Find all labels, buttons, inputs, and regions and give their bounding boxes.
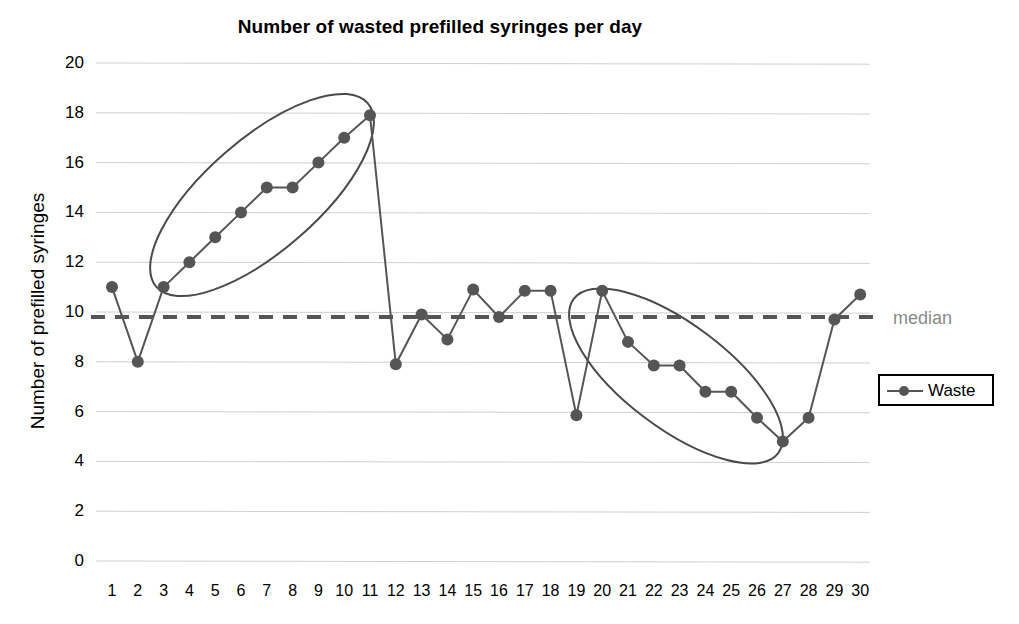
data-point-marker xyxy=(312,157,324,169)
data-point-marker xyxy=(777,435,789,447)
data-point-marker xyxy=(261,182,273,194)
chart-container: Number of wasted prefilled syringes per … xyxy=(0,0,1019,624)
data-point-marker xyxy=(106,281,118,293)
gridline xyxy=(96,262,870,263)
data-point-marker xyxy=(751,412,763,424)
data-point-marker xyxy=(545,285,557,297)
data-point-marker xyxy=(622,336,634,348)
ellipse-falling-trend xyxy=(542,257,809,494)
data-point-marker xyxy=(338,132,350,144)
trend-annotation-ellipses xyxy=(120,61,810,495)
data-point-marker xyxy=(803,412,815,424)
legend-marker-icon xyxy=(899,386,909,396)
data-point-marker xyxy=(725,386,737,398)
gridline xyxy=(96,312,870,313)
data-point-marker xyxy=(183,256,195,268)
gridline xyxy=(96,63,870,64)
data-point-marker xyxy=(209,231,221,243)
gridline xyxy=(96,461,870,462)
data-point-marker xyxy=(570,409,582,421)
series-line-waste xyxy=(112,115,860,441)
gridline xyxy=(96,113,870,114)
data-point-marker xyxy=(364,109,376,121)
legend-box: Waste xyxy=(878,374,994,406)
gridline xyxy=(96,362,870,363)
data-point-marker xyxy=(287,182,299,194)
data-series-waste xyxy=(106,109,866,447)
data-point-marker xyxy=(132,356,144,368)
gridline xyxy=(96,412,870,413)
data-point-marker xyxy=(674,360,686,372)
data-point-marker xyxy=(441,333,453,345)
plot-area xyxy=(0,0,1019,624)
gridline xyxy=(96,212,870,213)
data-point-marker xyxy=(493,311,505,323)
data-point-marker xyxy=(519,285,531,297)
data-point-marker xyxy=(648,360,660,372)
data-point-marker xyxy=(596,285,608,297)
gridlines xyxy=(96,63,870,562)
legend-item-label: Waste xyxy=(928,381,976,401)
gridline xyxy=(96,511,870,512)
data-point-marker xyxy=(699,386,711,398)
data-point-marker xyxy=(828,313,840,325)
median-line-label: median xyxy=(893,308,952,329)
data-point-marker xyxy=(235,206,247,218)
gridline xyxy=(96,561,870,562)
data-point-marker xyxy=(854,289,866,301)
data-point-marker xyxy=(467,284,479,296)
data-point-marker xyxy=(158,281,170,293)
data-point-marker xyxy=(390,358,402,370)
data-point-marker xyxy=(416,308,428,320)
